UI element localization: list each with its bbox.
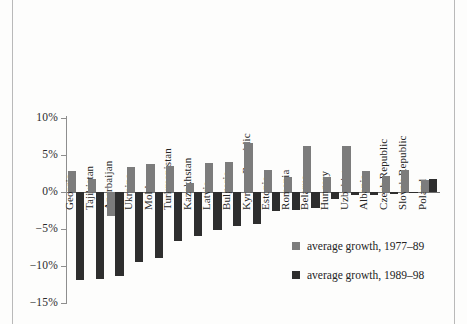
bar-group [264, 0, 284, 324]
legend-swatch-icon [292, 271, 300, 279]
bar-group [127, 0, 147, 324]
bar-series1 [166, 166, 174, 192]
bar-group [146, 0, 166, 324]
bar-group [225, 0, 245, 324]
bar-series1 [107, 192, 115, 216]
bar-series2 [115, 192, 123, 276]
bar-series2 [213, 192, 221, 230]
bar-series1 [323, 177, 331, 192]
bar-series2 [370, 192, 378, 195]
bar-series1 [382, 176, 390, 192]
bar-series1 [303, 146, 311, 192]
bar-group [88, 0, 108, 324]
y-axis-tick-label: 10% [18, 112, 58, 124]
legend-item: average growth, 1989–98 [292, 269, 424, 281]
bar-group [166, 0, 186, 324]
bar-series1 [146, 164, 154, 192]
bar-series2 [272, 192, 280, 211]
bar-series1 [186, 183, 194, 192]
bar-group [244, 0, 264, 324]
bar-series1 [225, 162, 233, 192]
bar-series2 [429, 179, 437, 192]
chart-legend: average growth, 1977–89 average growth, … [292, 240, 424, 298]
bar-group [68, 0, 88, 324]
bar-group [205, 0, 225, 324]
bar-series1 [68, 171, 76, 192]
y-axis-tick-label: 5% [18, 149, 58, 161]
bar-series1 [205, 163, 213, 192]
bar-series2 [331, 192, 339, 199]
legend-swatch-icon [292, 242, 300, 250]
bar-series2 [155, 192, 163, 258]
bar-series2 [135, 192, 143, 262]
bar-series1 [362, 171, 370, 192]
bar-series1 [244, 143, 252, 192]
chart-figure: 10%5%0%−5%−10%−15% GeorgiaTajikistanAzer… [0, 0, 467, 324]
bar-series2 [409, 192, 417, 193]
legend-item-label: average growth, 1989–98 [307, 269, 424, 281]
y-axis-tick-label: −10% [18, 260, 58, 272]
y-axis-tick-label: −15% [18, 297, 58, 309]
bar-series2 [253, 192, 261, 224]
bar-group [107, 0, 127, 324]
bar-series2 [292, 192, 300, 210]
y-axis-tick-label: −5% [18, 223, 58, 235]
bar-series1 [88, 179, 96, 192]
bar-series2 [194, 192, 202, 236]
bar-series2 [76, 192, 84, 280]
y-axis-tick-label: 0% [18, 186, 58, 198]
bar-series1 [127, 167, 135, 192]
legend-item: average growth, 1977–89 [292, 240, 424, 252]
bar-series1 [401, 170, 409, 192]
bar-series2 [351, 192, 359, 195]
bar-series1 [284, 177, 292, 192]
bar-series1 [421, 180, 429, 192]
bar-series2 [390, 192, 398, 194]
legend-item-label: average growth, 1977–89 [307, 240, 424, 252]
bar-group [186, 0, 206, 324]
bar-series1 [264, 170, 272, 192]
bar-series2 [311, 192, 319, 208]
bar-series2 [174, 192, 182, 241]
bar-series1 [342, 146, 350, 192]
bar-series2 [96, 192, 104, 279]
bar-series2 [233, 192, 241, 226]
